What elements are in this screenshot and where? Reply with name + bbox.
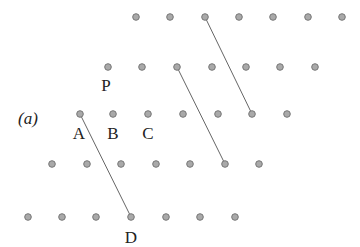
label-b: B <box>107 124 118 143</box>
lattice-point <box>209 64 216 71</box>
lattice-point <box>105 64 112 71</box>
label-d: D <box>125 228 137 247</box>
label-c: C <box>142 124 153 143</box>
lattice-point <box>339 14 346 21</box>
lattice-point <box>180 111 187 118</box>
lattice-point <box>197 214 204 221</box>
lattice-point <box>59 214 66 221</box>
lattice-point <box>139 64 146 71</box>
lattice-point <box>133 14 140 21</box>
lattice-point <box>215 111 222 118</box>
connecting-lines <box>80 17 252 217</box>
lattice-point <box>249 111 256 118</box>
lattice-point <box>305 14 312 21</box>
lattice-point <box>202 14 209 21</box>
lattice-point <box>153 161 160 168</box>
label-p: P <box>101 76 110 95</box>
lattice-point <box>277 64 284 71</box>
lattice-diagram: (a)PABCD <box>0 0 360 247</box>
lattice-point <box>284 111 291 118</box>
lattice-point <box>49 161 56 168</box>
label-a: A <box>73 124 86 143</box>
lattice-point <box>145 111 152 118</box>
lattice-point <box>174 64 181 71</box>
panel-label: (a) <box>18 109 38 128</box>
lattice-point <box>256 161 263 168</box>
lattice-point <box>163 214 170 221</box>
lattice-point <box>118 161 125 168</box>
lattice-point <box>77 111 84 118</box>
lattice-point <box>110 111 117 118</box>
lattice-point <box>312 64 319 71</box>
lattice-point <box>128 214 135 221</box>
lattice-points <box>25 14 346 221</box>
lattice-point <box>270 14 277 21</box>
lattice-point <box>84 161 91 168</box>
lattice-point <box>236 14 243 21</box>
lattice-point <box>222 161 229 168</box>
lattice-point <box>93 214 100 221</box>
lattice-point <box>25 214 32 221</box>
lattice-point <box>187 161 194 168</box>
lattice-point <box>243 64 250 71</box>
lattice-point <box>232 214 239 221</box>
lattice-point <box>167 14 174 21</box>
